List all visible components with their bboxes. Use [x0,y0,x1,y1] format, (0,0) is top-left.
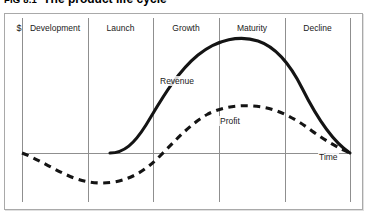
profit-series-label: Profit [219,116,241,126]
stage-label-decline: Decline [285,21,350,35]
revenue-series-label: Revenue [159,76,195,86]
stage-label-launch: Launch [88,21,153,35]
product-life-cycle-figure: FIG 8.1 The product life cycle $ [0,0,369,220]
x-axis-label: Time [318,152,339,162]
figure-number: FIG 8.1 [4,0,37,5]
stage-label-growth: Growth [153,21,219,35]
stage-label-maturity: Maturity [219,21,285,35]
page-title: The product life cycle [43,0,166,6]
figure-frame [4,13,363,210]
stage-label-development: Development [22,21,88,35]
figure-caption: FIG 8.1 The product life cycle [4,0,364,8]
